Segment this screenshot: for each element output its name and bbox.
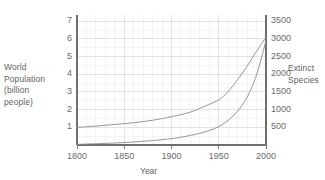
left-axis-title: World Population (billion people) [4, 62, 60, 108]
x-tick-label: 2000 [248, 151, 284, 161]
left-tick-label: 1 [58, 121, 72, 131]
x-tick-label: 1850 [106, 151, 142, 161]
left-tick-label: 3 [58, 86, 72, 96]
left-tick-label: 2 [58, 104, 72, 114]
right-tick-label: 3000 [271, 33, 301, 43]
left-tick-label: 6 [58, 33, 72, 43]
right-tick-label: 2000 [271, 68, 301, 78]
chart-figure: World Population (billion people) Extinc… [0, 0, 325, 180]
right-tick-label: 1000 [271, 104, 301, 114]
left-tick-label: 4 [58, 68, 72, 78]
tick-marks [77, 145, 266, 149]
left-tick-label: 7 [58, 15, 72, 25]
x-axis-title: Year [140, 166, 200, 176]
x-tick-label: 1800 [59, 151, 95, 161]
x-tick-label: 1950 [201, 151, 237, 161]
x-tick-label: 1900 [154, 151, 190, 161]
right-tick-label: 1500 [271, 86, 301, 96]
right-tick-label: 2500 [271, 51, 301, 61]
left-tick-label: 5 [58, 51, 72, 61]
right-tick-label: 500 [271, 121, 301, 131]
right-tick-label: 3500 [271, 15, 301, 25]
